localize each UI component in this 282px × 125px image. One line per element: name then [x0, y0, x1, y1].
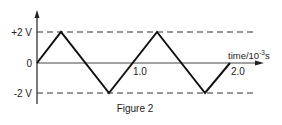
- figure-2: +2 V 0 -2 V 1.0 2.0 time/10-3s Figure 2: [0, 0, 282, 125]
- x-axis-label-base: time/10: [228, 50, 259, 61]
- x-tick-2-0: 2.0: [231, 66, 245, 77]
- figure-caption: Figure 2: [117, 103, 154, 114]
- triangle-wave-diagram: +2 V 0 -2 V 1.0 2.0 time/10-3s Figure 2: [0, 0, 282, 125]
- x-axis-label: time/10-3s: [228, 49, 270, 61]
- x-tick-1-0: 1.0: [133, 66, 147, 77]
- x-axis-arrow-icon: [255, 61, 264, 66]
- x-axis-label-unit: s: [265, 50, 270, 61]
- y-label-plus-2v: +2 V: [11, 27, 32, 38]
- y-axis-arrow-icon: [35, 10, 40, 18]
- y-label-minus-2v: -2 V: [14, 88, 33, 99]
- y-label-zero: 0: [26, 58, 32, 69]
